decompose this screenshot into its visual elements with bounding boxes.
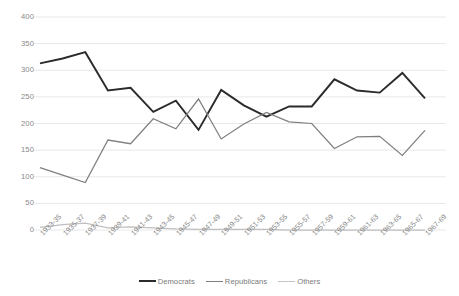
grid-lines: [34, 17, 446, 230]
legend-item-republicans[interactable]: Republicans: [206, 277, 267, 286]
y-axis-tick-label: 50: [8, 199, 34, 207]
y-axis-tick-label: 150: [8, 146, 34, 154]
series-line-republicans: [40, 99, 425, 183]
y-axis-tick-label: 400: [8, 13, 34, 21]
y-axis-tick-label: 250: [8, 93, 34, 101]
legend-swatch-icon: [278, 281, 295, 282]
y-axis-tick-label: 300: [8, 66, 34, 74]
legend-label: Republicans: [225, 277, 267, 286]
y-axis-tick-label: 350: [8, 40, 34, 48]
plot-area: [0, 0, 459, 250]
legend-item-democrats[interactable]: Democrats: [139, 277, 195, 286]
line-chart: 400350300250200150100500 1933-351935-371…: [0, 0, 459, 296]
series-line-democrats: [40, 52, 425, 130]
legend-item-others[interactable]: Others: [278, 277, 320, 286]
legend-swatch-icon: [206, 281, 223, 282]
plot-svg: [0, 0, 459, 250]
y-axis-tick-label: 100: [8, 173, 34, 181]
y-axis-tick-label: 200: [8, 120, 34, 128]
legend-swatch-icon: [139, 280, 156, 282]
legend-label: Others: [297, 277, 320, 286]
chart-legend: DemocratsRepublicansOthers: [0, 272, 459, 290]
y-axis-tick-labels: 400350300250200150100500: [5, 0, 34, 250]
legend-label: Democrats: [158, 277, 195, 286]
